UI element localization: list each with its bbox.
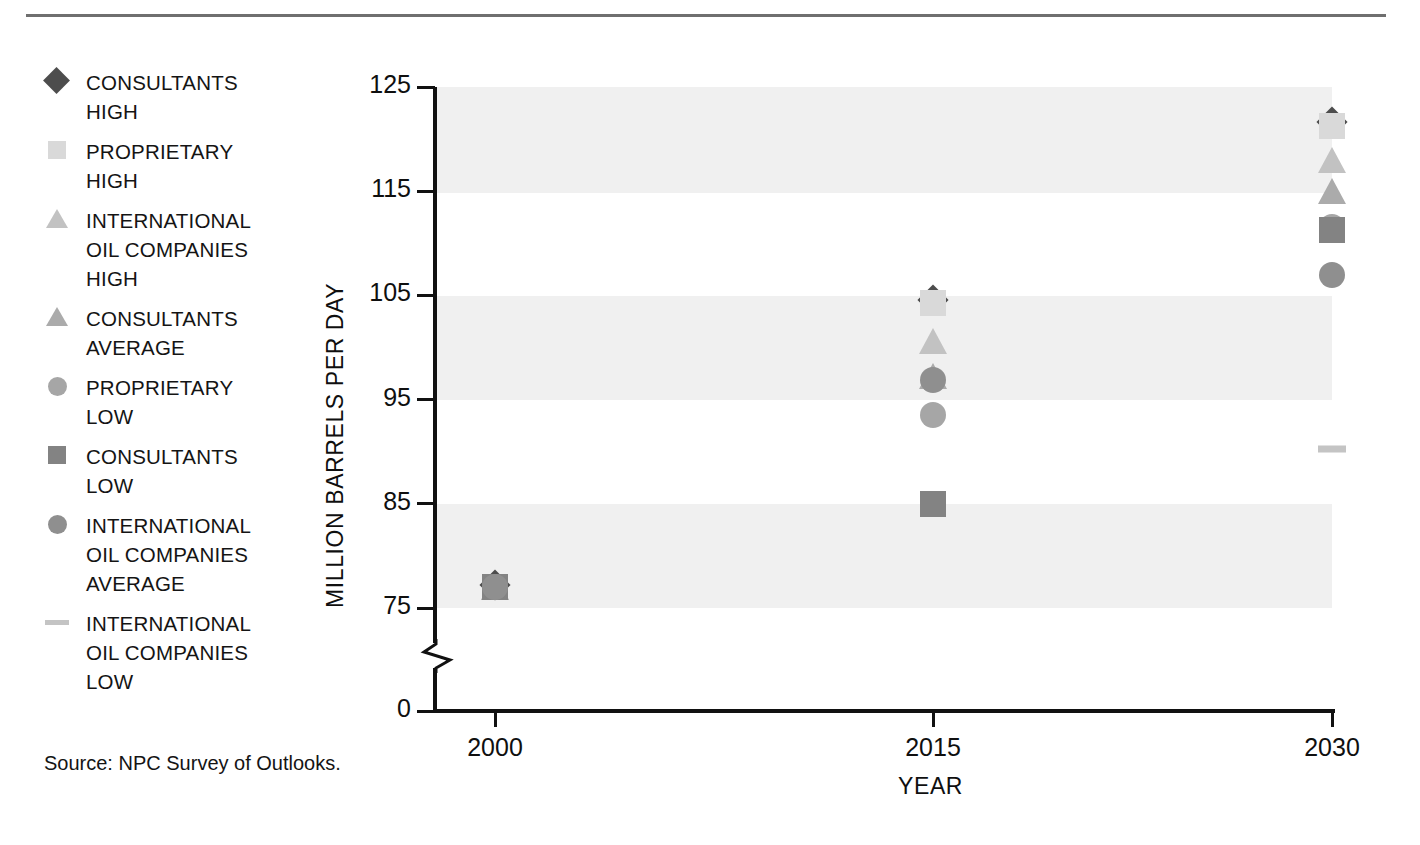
x-tick-label: 2000 [435,733,555,762]
x-tick-label: 2030 [1272,733,1392,762]
y-axis-title: MILLION BARRELS PER DAY [322,283,349,608]
data-point [920,367,946,393]
y-tick-label: 105 [341,278,411,307]
data-point [920,402,946,428]
data-point [1318,178,1346,204]
y-axis-line-lower [433,668,437,712]
y-tick [417,710,435,713]
data-point [1319,217,1345,243]
y-tick [417,502,435,505]
y-tick-label: 0 [341,694,411,723]
x-axis-line [433,709,1335,713]
y-tick [417,190,435,193]
y-tick-label: 125 [341,70,411,99]
x-tick [1331,713,1334,727]
y-tick [417,86,435,89]
x-tick [494,713,497,727]
y-tick-label: 75 [341,591,411,620]
y-axis-line-upper [433,87,437,643]
y-tick [417,607,435,610]
data-point [919,328,947,354]
y-tick-label: 95 [341,383,411,412]
data-point [1319,262,1345,288]
y-tick-label: 115 [341,174,411,203]
data-point [1318,445,1346,452]
band-75-85 [436,504,1332,608]
band-95-105 [436,296,1332,400]
source-note: Source: NPC Survey of Outlooks. [44,752,341,775]
x-tick [932,713,935,727]
data-point [920,491,946,517]
axis-break-icon [420,638,454,674]
data-point [1319,113,1345,139]
x-axis-title: YEAR [898,773,963,800]
chart-plot-area: MILLION BARRELS PER DAY YEAR Source: NPC… [0,0,1420,845]
y-tick [417,294,435,297]
data-point [482,574,508,600]
data-point [920,290,946,316]
band-115-125 [436,87,1332,193]
data-point [1318,147,1346,173]
y-tick-label: 85 [341,487,411,516]
y-tick [417,398,435,401]
x-tick-label: 2015 [873,733,993,762]
